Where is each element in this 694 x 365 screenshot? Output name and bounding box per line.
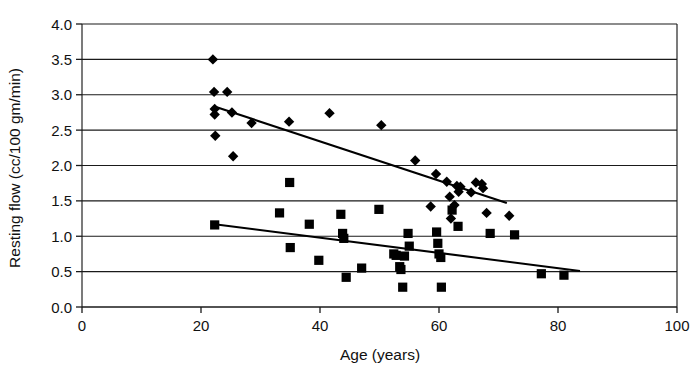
y-tick-label: 0.0: [51, 299, 72, 316]
x-tick-label: 20: [193, 317, 210, 334]
data-point-square: [510, 230, 519, 239]
diamond-series: [208, 54, 515, 224]
y-tick-group: 0.00.51.01.52.02.53.03.54.0: [51, 16, 82, 316]
data-point-diamond: [410, 155, 420, 165]
y-tick-label: 3.0: [51, 86, 72, 103]
data-point-square: [342, 273, 351, 282]
data-point-square: [305, 220, 314, 229]
data-point-square: [314, 256, 323, 265]
square-series: [210, 178, 568, 292]
data-point-square: [437, 283, 446, 292]
data-point-square: [357, 263, 366, 272]
data-point-square: [433, 239, 442, 248]
data-point-diamond: [222, 87, 232, 97]
data-point-square: [405, 242, 414, 251]
data-point-diamond: [425, 201, 435, 211]
x-tick-label: 100: [664, 317, 689, 334]
y-tick-label: 0.5: [51, 263, 72, 280]
data-point-square: [275, 208, 284, 217]
x-axis-label: Age (years): [340, 346, 420, 363]
y-tick-label: 1.0: [51, 228, 72, 245]
data-point-square: [286, 243, 295, 252]
x-tick-label: 80: [550, 317, 567, 334]
y-tick-label: 3.5: [51, 51, 72, 68]
data-point-diamond: [210, 131, 220, 141]
data-point-square: [374, 205, 383, 214]
y-tick-label: 4.0: [51, 16, 72, 33]
data-point-square: [210, 220, 219, 229]
x-tick-label: 0: [78, 317, 86, 334]
x-tick-label: 40: [312, 317, 329, 334]
scatter-chart: 0.00.51.01.52.02.53.03.54.0 020406080100…: [0, 0, 694, 365]
y-tick-label: 1.5: [51, 192, 72, 209]
data-point-square: [403, 229, 412, 238]
data-point-diamond: [504, 211, 514, 221]
x-tick-label: 60: [431, 317, 448, 334]
data-point-diamond: [324, 108, 334, 118]
data-point-square: [339, 234, 348, 243]
data-point-square: [336, 210, 345, 219]
data-point-diamond: [284, 116, 294, 126]
data-point-diamond: [376, 120, 386, 130]
data-point-square: [392, 251, 401, 260]
data-point-square: [396, 265, 405, 274]
data-point-square: [400, 251, 409, 260]
data-point-diamond: [208, 54, 218, 64]
y-tick-label: 2.5: [51, 122, 72, 139]
data-point-diamond: [209, 109, 219, 119]
data-point-diamond: [228, 151, 238, 161]
data-point-diamond: [466, 187, 476, 197]
data-point-diamond: [481, 208, 491, 218]
data-point-square: [447, 205, 456, 214]
data-point-square: [486, 229, 495, 238]
data-point-diamond: [445, 191, 455, 201]
data-point-square: [537, 269, 546, 278]
data-point-square: [398, 283, 407, 292]
data-point-square: [432, 227, 441, 236]
y-axis-label: Resting flow (cc/100 gm/min): [6, 68, 23, 268]
data-point-square: [453, 222, 462, 231]
x-tick-group: 020406080100: [78, 307, 690, 334]
data-point-square: [285, 178, 294, 187]
data-point-square: [559, 271, 568, 280]
data-point-diamond: [209, 87, 219, 97]
gridline-group: [82, 24, 677, 307]
y-tick-label: 2.0: [51, 157, 72, 174]
data-point-square: [436, 253, 445, 262]
data-point-group: [208, 54, 569, 292]
data-point-diamond: [227, 107, 237, 117]
chart-canvas: 0.00.51.01.52.02.53.03.54.0 020406080100…: [0, 0, 694, 365]
trendline-group: [215, 107, 580, 271]
